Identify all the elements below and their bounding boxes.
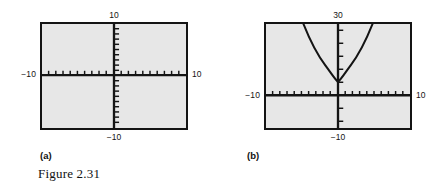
calculator-screen-a [40, 22, 188, 130]
figure-caption: Figure 2.31 [38, 166, 100, 182]
panel-letter-b: (b) [247, 150, 259, 161]
calculator-screen-b [264, 22, 412, 130]
axes-b [266, 24, 410, 128]
axis-label-b-bottom: −10 [318, 132, 358, 142]
axes-a [42, 24, 186, 128]
axis-label-a-right: 10 [192, 69, 224, 79]
axis-label-a-bottom: −10 [94, 132, 134, 142]
axis-label-b-right: 10 [416, 90, 448, 100]
axis-label-a-top: 10 [94, 10, 134, 20]
figure-2-31: 10 −10 10 −10 (a) [0, 0, 448, 190]
panel-letter-a: (a) [40, 150, 52, 161]
axis-label-b-left: −10 [228, 90, 260, 100]
axis-label-a-left: −10 [4, 69, 36, 79]
axis-label-b-top: 30 [318, 10, 358, 20]
